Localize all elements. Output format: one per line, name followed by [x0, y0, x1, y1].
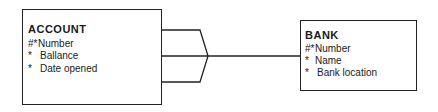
account-attribute-ballance: *Ballance — [28, 50, 78, 62]
attribute-label: Name — [315, 55, 342, 66]
identifier-marker: #* — [28, 38, 38, 50]
entity-bank-title: BANK — [305, 29, 339, 41]
mandatory-marker: * — [305, 67, 317, 79]
identifier-marker: #* — [305, 43, 315, 55]
bank-attribute-name: *Name — [305, 55, 342, 67]
bank-attribute-number: #*Number — [305, 43, 351, 55]
mandatory-marker: * — [28, 50, 40, 62]
account-attribute-date-opened: *Date opened — [28, 63, 97, 75]
bank-attribute-bank-location: *Bank location — [305, 67, 377, 79]
mandatory-marker: * — [28, 63, 40, 75]
attribute-label: Bank location — [317, 67, 377, 78]
attribute-label: Number — [38, 38, 74, 49]
attribute-label: Number — [315, 43, 351, 54]
entity-account-title: ACCOUNT — [28, 23, 87, 35]
crows-foot-top-prong — [161, 30, 208, 56]
mandatory-marker: * — [305, 55, 315, 67]
account-attribute-number: #*Number — [28, 38, 74, 50]
attribute-label: Ballance — [40, 50, 78, 61]
crows-foot-bottom-prong — [161, 56, 208, 82]
attribute-label: Date opened — [40, 63, 97, 74]
